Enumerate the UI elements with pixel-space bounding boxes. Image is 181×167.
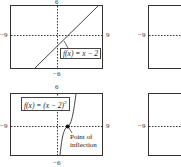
- graph-panel-cubic: 6 −9 9 −6 f(x) = (x − 2)3 Point of infle…: [0, 84, 110, 167]
- ymin-label: −6: [53, 160, 60, 167]
- function-label-cubic: f(x) = (x − 2)3: [21, 97, 70, 111]
- xmax-label: 9: [106, 123, 110, 130]
- xmin-label: −9: [138, 123, 145, 130]
- xmax-label: 9: [106, 32, 110, 39]
- graph-panel-top-right: −9: [138, 0, 181, 80]
- top-right-graph: [138, 0, 181, 80]
- graph-panel-linear: 6 −9 9 −6 f(x) = x − 2: [0, 0, 110, 80]
- graph-panel-bottom-right: −9: [138, 84, 181, 167]
- inflection-annotation: Point of inflection: [70, 133, 97, 149]
- ymin-label: −6: [53, 71, 60, 78]
- xmin-label: −9: [138, 32, 145, 39]
- cubic-exponent: 3: [64, 100, 67, 105]
- linear-graph: [0, 0, 110, 80]
- cubic-label-text: f(x) = (x − 2): [24, 101, 64, 110]
- xmin-label: −9: [0, 32, 7, 39]
- function-label-linear: f(x) = x − 2: [60, 48, 101, 59]
- annotation-line-2: inflection: [70, 141, 97, 149]
- annotation-line-1: Point of: [70, 133, 97, 141]
- xmin-label: −9: [0, 123, 7, 130]
